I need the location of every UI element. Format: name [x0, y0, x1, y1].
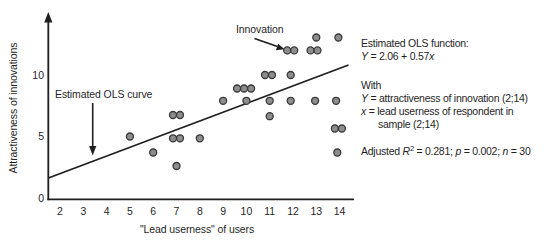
data-point — [234, 85, 241, 92]
data-point — [313, 34, 320, 41]
data-point — [287, 72, 294, 79]
info-line: Estimated OLS function: — [361, 37, 531, 50]
x-tick-label: 10 — [241, 205, 253, 217]
data-point — [291, 47, 298, 54]
info-text-segment: = lead userness of respondent in — [366, 105, 513, 117]
y-tick-label: 10 — [32, 69, 44, 81]
info-line: Y = 2.06 + 0.57x — [361, 50, 531, 63]
data-point — [241, 85, 248, 92]
data-point — [269, 72, 276, 79]
scatter-plot-figure: 2345678910111213140510 Attractiveness of… — [0, 0, 550, 246]
data-point — [177, 112, 184, 119]
data-point — [177, 135, 184, 142]
info-text-segment: = 2.06 + 0.57 — [368, 50, 429, 62]
x-tick-label: 5 — [127, 205, 133, 217]
x-tick-label: 4 — [104, 205, 110, 217]
x-tick-label: 11 — [264, 205, 275, 217]
info-text-segment: = 0.002; — [461, 145, 503, 157]
y-axis-title: Attractiveness of innovations — [7, 43, 19, 174]
x-tick-label: 12 — [287, 205, 299, 217]
x-tick-label: 2 — [57, 205, 63, 217]
data-point — [243, 97, 250, 104]
y-tick-label: 0 — [38, 192, 44, 204]
data-point — [338, 125, 345, 132]
data-point — [333, 97, 340, 104]
data-point — [334, 149, 341, 156]
info-text-segment: = 0.281; — [414, 145, 456, 157]
info-text-segment: With — [361, 79, 381, 91]
x-tick-label: 9 — [220, 205, 226, 217]
data-point — [126, 133, 133, 140]
data-point — [196, 135, 203, 142]
info-text-segment: Estimated OLS function: — [361, 37, 468, 49]
data-point — [307, 47, 314, 54]
innovation-arrowhead-icon — [276, 44, 285, 51]
data-point — [284, 47, 291, 54]
data-point — [287, 97, 294, 104]
data-point — [248, 85, 255, 92]
y-axis-arrowhead-icon — [44, 12, 52, 23]
info-line: x = lead userness of respondent in — [361, 105, 531, 118]
innovation-annotation: Innovation — [236, 23, 283, 35]
info-text-segment: sample (2;14) — [378, 118, 439, 130]
info-text-segment: Adjusted — [361, 145, 403, 157]
ols-curve-annotation: Estimated OLS curve — [55, 88, 152, 100]
info-line: Y = attractiveness of innovation (2;14) — [361, 92, 531, 105]
info-line: Adjusted R2 = 0.281; p = 0.002; n = 30 — [361, 145, 531, 158]
info-text-segment: R — [403, 145, 410, 157]
x-tick-label: 14 — [334, 205, 346, 217]
innovation-arrow-icon — [255, 39, 278, 47]
info-line: With — [361, 79, 531, 92]
info-text-segment: = attractiveness of innovation (2;14) — [368, 92, 528, 104]
data-point — [266, 113, 273, 120]
info-text-segment: x — [429, 50, 434, 62]
info-line: sample (2;14) — [361, 118, 531, 131]
info-text-segment: = 30 — [508, 145, 530, 157]
data-point — [220, 97, 227, 104]
x-axis-title: "Lead userness" of users — [140, 223, 254, 235]
data-point — [150, 149, 157, 156]
data-point — [170, 135, 177, 142]
info-text-segment: Y — [361, 92, 368, 104]
x-tick-label: 6 — [150, 205, 156, 217]
data-point — [312, 97, 319, 104]
ols-info-panel: Estimated OLS function:Y = 2.06 + 0.57xW… — [361, 37, 531, 158]
data-point — [262, 72, 269, 79]
x-tick-label: 8 — [197, 205, 203, 217]
data-point — [266, 97, 273, 104]
y-tick-label: 5 — [38, 130, 44, 142]
data-point — [314, 47, 321, 54]
info-text-segment: Y — [361, 50, 368, 62]
data-point — [335, 34, 342, 41]
x-tick-label: 3 — [80, 205, 86, 217]
data-point — [331, 125, 338, 132]
ols-curve-arrowhead-icon — [89, 146, 96, 156]
x-tick-label: 7 — [174, 205, 180, 217]
data-point — [170, 112, 177, 119]
data-point — [173, 163, 180, 170]
x-tick-label: 13 — [310, 205, 322, 217]
